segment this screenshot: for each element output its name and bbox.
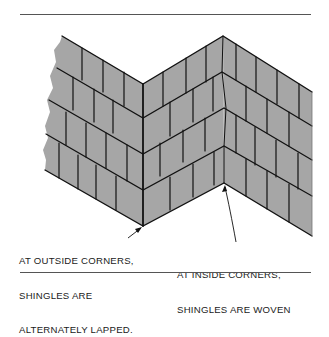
inside-corner-label-line-2: SHINGLES ARE WOVEN [177, 304, 291, 316]
inside-corner-label: AT INSIDE CORNERS, SHINGLES ARE WOVEN [177, 246, 291, 337]
outside-corner-label-line-3: ALTERNATELY LAPPED. [19, 324, 134, 336]
outside-corner-label-line-2: SHINGLES ARE [19, 290, 134, 302]
inside-corner-label-line-1: AT INSIDE CORNERS, [177, 269, 291, 281]
inside-corner-leader [225, 187, 236, 242]
bottom-rule [20, 272, 311, 273]
outside-corner-label-line-1: AT OUTSIDE CORNERS, [19, 255, 134, 267]
inside-leader-arrowhead [222, 185, 227, 192]
outside-corner-label: AT OUTSIDE CORNERS, SHINGLES ARE ALTERNA… [19, 232, 134, 337]
